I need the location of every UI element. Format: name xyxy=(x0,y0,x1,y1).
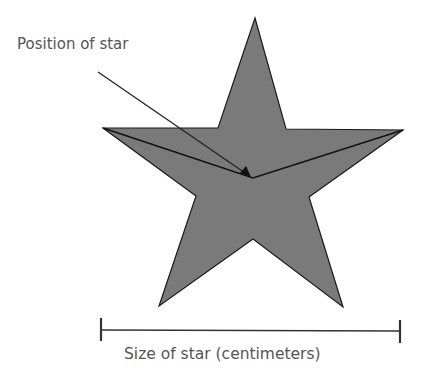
size-label: Size of star (centimeters) xyxy=(124,345,321,363)
position-label: Position of star xyxy=(17,35,128,53)
star-diagram xyxy=(0,0,428,388)
star-shape xyxy=(103,18,403,307)
ruler-line xyxy=(101,330,400,331)
